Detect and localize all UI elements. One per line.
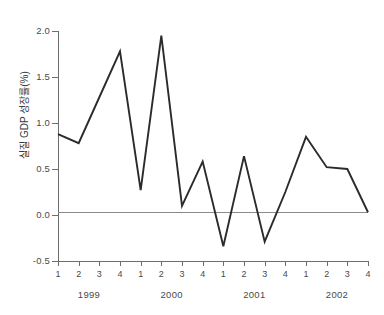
chart-figure: 실질 GDP 성장률(%) 2.01.51.00.50.0-0.5 123412…: [0, 0, 384, 315]
series-line-gdp-growth: [0, 0, 384, 315]
